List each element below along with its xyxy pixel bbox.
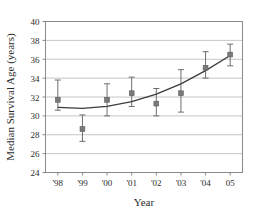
- y-tick-label: 36: [31, 55, 41, 65]
- x-tick-label: '02: [151, 178, 162, 188]
- y-tick-label: 24: [31, 168, 41, 178]
- x-tick-label: '99: [77, 178, 88, 188]
- y-tick-label: 28: [31, 130, 41, 140]
- y-tick-label: 26: [31, 149, 41, 159]
- x-axis: '98'99'00'01'02'03'0405: [53, 173, 236, 188]
- y-tick-label: 30: [31, 111, 41, 121]
- x-tick-label: '00: [102, 178, 113, 188]
- y-axis: 242628303234363840: [31, 17, 46, 178]
- data-point-marker: [203, 65, 208, 70]
- data-point-marker: [105, 97, 110, 102]
- x-axis-title: Year: [134, 196, 155, 208]
- data-point-marker: [129, 91, 134, 96]
- y-axis-title: Median Survival Age (years): [4, 33, 17, 161]
- data-point-marker: [228, 52, 233, 57]
- chart-figure: 242628303234363840 '98'99'00'01'02'03'04…: [0, 0, 261, 215]
- data-point-marker: [80, 127, 85, 132]
- y-tick-label: 38: [31, 36, 41, 46]
- x-tick-label: 05: [226, 178, 236, 188]
- x-tick-label: '03: [176, 178, 187, 188]
- data-point-marker: [179, 91, 184, 96]
- trend-line: [58, 55, 230, 108]
- gridlines: [46, 40, 243, 153]
- x-tick-label: '04: [200, 178, 211, 188]
- y-tick-label: 32: [31, 93, 40, 103]
- x-tick-label: '98: [53, 178, 64, 188]
- y-tick-label: 40: [31, 17, 41, 27]
- data-point-marker: [154, 101, 159, 106]
- x-tick-label: '01: [126, 178, 137, 188]
- data-point-marker: [55, 97, 60, 102]
- y-tick-label: 34: [31, 74, 41, 84]
- survival-age-scatter-chart: 242628303234363840 '98'99'00'01'02'03'04…: [0, 0, 261, 215]
